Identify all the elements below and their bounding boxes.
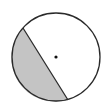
center-point	[54, 55, 57, 58]
circle-diagram	[0, 0, 104, 110]
